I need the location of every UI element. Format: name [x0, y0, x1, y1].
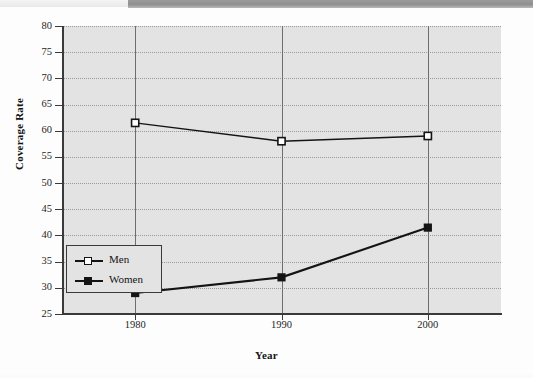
data-point-marker [132, 119, 139, 126]
legend-item-women: Women [67, 270, 163, 290]
legend-item-men: Men [67, 250, 163, 270]
series-line-women [135, 228, 428, 293]
legend-label-men: Men [109, 253, 129, 265]
series-layer [0, 0, 533, 378]
page-canvas: 807570656055504540353025 198019902000 Co… [0, 0, 533, 378]
filled-square-marker-icon [75, 277, 103, 284]
chart-legend: Men Women [66, 245, 162, 293]
data-point-marker [278, 274, 285, 281]
data-point-marker [425, 224, 432, 231]
data-point-marker [424, 132, 431, 139]
legend-label-women: Women [109, 273, 143, 285]
x-axis-title: Year [0, 349, 533, 361]
data-point-marker [278, 138, 285, 145]
line-chart: 807570656055504540353025 198019902000 Co… [0, 0, 533, 378]
y-axis-title: Coverage Rate [13, 79, 25, 189]
open-square-marker-icon [75, 257, 103, 264]
